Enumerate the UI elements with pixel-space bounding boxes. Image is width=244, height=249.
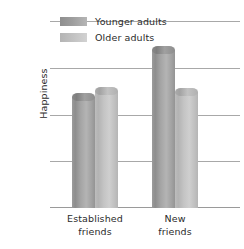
bar-new-older [175, 88, 198, 208]
bar-body [152, 50, 175, 208]
plot-area [50, 21, 240, 208]
legend-item-younger-adults: Younger adults [60, 15, 167, 28]
x-axis-tick-line2: friends [120, 225, 230, 238]
legend-label-younger: Younger adults [95, 16, 167, 27]
chart-legend: Younger adults Older adults [60, 15, 167, 47]
bar-chart: Happiness 4 3 2 1 0 [0, 0, 244, 249]
legend-label-older: Older adults [95, 32, 154, 43]
bar-cap [175, 88, 198, 96]
legend-item-older-adults: Older adults [60, 31, 167, 44]
gridline-3 [50, 68, 240, 69]
bar-body [72, 97, 95, 208]
bar-body [95, 91, 118, 208]
bar-cap [95, 87, 118, 95]
x-axis-tick-line1: New [120, 212, 230, 225]
bar-body [175, 92, 198, 208]
bar-cap [72, 93, 95, 101]
legend-swatch-icon-older [60, 33, 87, 42]
y-axis-title: Happiness [38, 49, 49, 139]
legend-swatch-icon-younger [60, 17, 87, 26]
bar-new-younger [152, 46, 175, 208]
bar-established-older [95, 87, 118, 208]
bar-established-younger [72, 93, 95, 208]
x-axis-tick-new-friends: New friends [120, 212, 230, 238]
